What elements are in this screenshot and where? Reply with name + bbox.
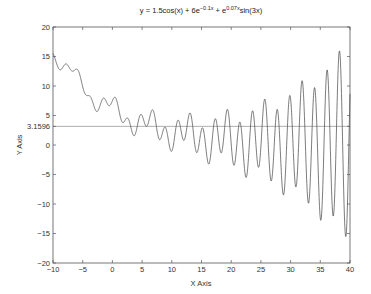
y-tick-label: −10 [37, 200, 50, 209]
x-tick-label: 0 [110, 265, 114, 274]
y-tick-label: 20 [42, 23, 50, 32]
y-tick-label: 3.1596 [27, 122, 50, 131]
x-tick-label: 25 [257, 265, 265, 274]
y-tick-label: 15 [42, 52, 50, 61]
chart-figure: y = 1.5cos(x) + 6e−0.1x + e0.07xsin(3x) … [0, 0, 371, 294]
y-tick-label: 5 [46, 111, 50, 120]
x-tick-label: 30 [286, 265, 294, 274]
x-tick-label: 20 [227, 265, 235, 274]
y-tick-label: −15 [37, 229, 50, 238]
y-tick-label: 0 [46, 141, 50, 150]
x-tick-label: 40 [346, 265, 354, 274]
y-axis-label: Y Axis [15, 134, 24, 155]
y-tick-label: −20 [37, 259, 50, 268]
x-axis-label: X Axis [191, 279, 212, 288]
data-curve [53, 51, 350, 237]
chart-title: y = 1.5cos(x) + 6e−0.1x + e0.07xsin(3x) [140, 5, 263, 15]
x-tick-label: −5 [78, 265, 87, 274]
x-tick-label: 15 [197, 265, 205, 274]
x-tick-label: 5 [140, 265, 144, 274]
x-tick-label: 10 [168, 265, 176, 274]
plot-area: −10−50510152025303540−20−15−10−503.15965… [27, 23, 354, 275]
y-tick-label: 10 [42, 82, 50, 91]
y-tick-label: −5 [41, 170, 50, 179]
x-tick-label: 35 [316, 265, 324, 274]
